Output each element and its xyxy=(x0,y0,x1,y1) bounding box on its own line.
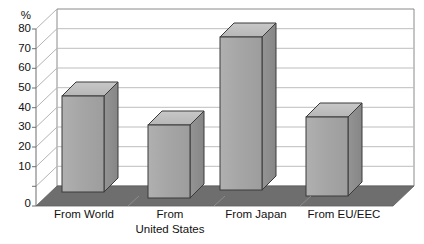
depth-line-50 xyxy=(36,88,57,108)
depth-line-60 xyxy=(36,68,57,88)
bar-front-face xyxy=(62,96,104,192)
bar-from-world xyxy=(62,82,118,192)
bar-side-face xyxy=(190,111,204,198)
bar-front-face xyxy=(220,37,262,190)
bar-front-face xyxy=(306,117,348,196)
y-tick-label-70: 70 xyxy=(18,42,31,54)
y-axis-ticks xyxy=(32,29,36,206)
depth-line-top xyxy=(36,9,57,29)
bar-front-face xyxy=(148,125,190,198)
y-tick-label-0: 0 xyxy=(25,197,31,209)
bar-from-japan xyxy=(220,23,276,190)
bar-from-eu-eec xyxy=(306,103,362,196)
depth-line-70 xyxy=(36,48,57,68)
bar-side-face xyxy=(348,103,362,196)
y-axis-unit-label: % xyxy=(21,9,31,21)
depth-line-10 xyxy=(36,166,57,186)
x-axis-category-labels: From World From United States From Japan… xyxy=(54,208,380,235)
y-tick-label-50: 50 xyxy=(18,81,31,93)
chart-canvas: % 80 70 60 50 40 30 20 10 0 xyxy=(0,0,424,244)
bar-side-face xyxy=(104,82,118,192)
bar-side-face xyxy=(262,23,276,190)
category-label-from-united-states-line2: United States xyxy=(135,223,204,235)
category-label-from-japan: From Japan xyxy=(225,208,286,220)
axis-depth-connectors xyxy=(36,9,57,186)
category-label-from-eu-eec: From EU/EEC xyxy=(308,208,381,220)
bar-chart-figure: % 80 70 60 50 40 30 20 10 0 xyxy=(0,0,424,244)
category-label-from-world: From World xyxy=(54,208,114,220)
y-tick-label-60: 60 xyxy=(18,61,31,73)
y-axis-tick-labels: 80 70 60 50 40 30 20 10 0 xyxy=(18,22,31,209)
y-tick-label-20: 20 xyxy=(18,140,31,152)
y-tick-label-80: 80 xyxy=(18,22,31,34)
depth-line-80 xyxy=(36,29,57,49)
y-tick-label-40: 40 xyxy=(18,101,31,113)
y-tick-label-30: 30 xyxy=(18,120,31,132)
category-label-from-united-states-line1: From xyxy=(157,208,184,220)
bar-from-united-states xyxy=(148,111,204,198)
y-tick-label-10: 10 xyxy=(18,160,31,172)
depth-line-20 xyxy=(36,147,57,167)
depth-line-40 xyxy=(36,107,57,127)
depth-line-30 xyxy=(36,127,57,147)
